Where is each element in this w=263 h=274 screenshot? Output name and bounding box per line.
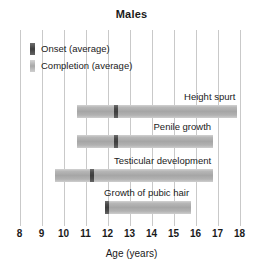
axis-tick-label: 17 <box>212 228 223 239</box>
legend-label-onset: Onset (average) <box>41 43 110 54</box>
legend-item-onset: Onset (average) <box>30 40 200 57</box>
axis-tick-label: 15 <box>168 228 179 239</box>
axis-tick <box>86 220 87 226</box>
chart-legend: Onset (average) Completion (average) <box>30 40 200 74</box>
axis-tick-label: 18 <box>234 228 245 239</box>
x-axis-title: Age (years) <box>0 248 263 259</box>
legend-label-completion: Completion (average) <box>41 60 132 71</box>
axis-tick <box>218 220 219 226</box>
axis-tick <box>64 220 65 226</box>
bar-completion-range <box>105 201 191 214</box>
gridline <box>20 30 21 220</box>
axis-tick-label: 16 <box>190 228 201 239</box>
bar-track <box>105 201 191 214</box>
axis-tick-label: 12 <box>102 228 113 239</box>
bar-onset-marker <box>114 105 118 118</box>
axis-tick <box>196 220 197 226</box>
chart-title: Males <box>0 8 263 20</box>
axis-tick-label: 11 <box>80 228 91 239</box>
axis-tick-label: 13 <box>124 228 135 239</box>
gridline <box>240 30 241 220</box>
axis-tick <box>20 220 21 226</box>
x-axis-ticks <box>0 220 263 228</box>
axis-tick <box>174 220 175 226</box>
bar-label: Testicular development <box>114 155 211 166</box>
axis-tick-label: 10 <box>58 228 69 239</box>
axis-tick-label: 9 <box>39 228 45 239</box>
axis-tick <box>108 220 109 226</box>
axis-tick <box>130 220 131 226</box>
axis-tick-label: 14 <box>146 228 157 239</box>
bar-track <box>77 135 213 148</box>
bar-onset-marker <box>114 135 118 148</box>
bar-onset-marker <box>105 201 109 214</box>
legend-item-completion: Completion (average) <box>30 57 200 74</box>
bar-completion-range <box>77 135 213 148</box>
puberty-timeline-chart: Males Onset (average) Completion (averag… <box>0 0 263 274</box>
bar-track <box>55 169 213 182</box>
plot-area: Onset (average) Completion (average) Hei… <box>0 30 263 220</box>
axis-tick-label: 8 <box>17 228 23 239</box>
legend-swatch-onset <box>30 43 35 55</box>
bar-label: Penile growth <box>154 121 212 132</box>
bar-label: Height spurt <box>184 91 235 102</box>
axis-tick <box>42 220 43 226</box>
bar-track <box>77 105 238 118</box>
bar-completion-range <box>55 169 213 182</box>
bar-completion-range <box>77 105 238 118</box>
bar-label: Growth of pubic hair <box>104 187 189 198</box>
bar-onset-marker <box>90 169 94 182</box>
legend-swatch-completion <box>30 60 35 72</box>
gridline <box>218 30 219 220</box>
axis-tick <box>240 220 241 226</box>
axis-tick <box>152 220 153 226</box>
